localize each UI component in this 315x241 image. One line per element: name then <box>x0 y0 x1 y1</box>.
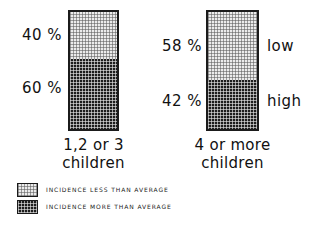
bar-1-segment-high <box>70 59 117 129</box>
bar-2-category-line-1: 4 or more <box>167 136 298 154</box>
bar-1-segment-low-value: 40 % <box>6 28 62 43</box>
bar-1-segment-low <box>70 12 117 59</box>
bar-2-segment-low-value: 58 % <box>150 39 202 54</box>
bar-group-1: 40 % 60 % 1,2 or 3 children <box>0 0 150 175</box>
bar-2-category-caption: 4 or more children <box>167 136 298 172</box>
bar-2-segment-high-side-label: high <box>267 94 301 109</box>
legend-swatch-dark-checker-icon <box>17 200 38 214</box>
bar-1-category-line-1: 1,2 or 3 <box>28 136 159 154</box>
bar-2-category-line-2: children <box>167 154 298 172</box>
bar-group-2: 58 % 42 % low high 4 or more children <box>150 0 315 175</box>
bar-2-segment-low-side-label: low <box>267 39 294 54</box>
bar-2-segment-low <box>208 12 257 80</box>
bar-1 <box>68 10 119 131</box>
legend-label-less-than-average: INCIDENCE LESS THAN AVERAGE <box>46 186 169 193</box>
bar-2-segment-high <box>208 80 257 129</box>
stacked-bar-chart: 40 % 60 % 1,2 or 3 children 58 % 42 % lo… <box>0 0 315 241</box>
bar-1-category-line-2: children <box>28 154 159 172</box>
bar-2 <box>206 10 259 131</box>
bar-1-segment-high-value: 60 % <box>6 81 62 96</box>
bar-1-category-caption: 1,2 or 3 children <box>28 136 159 172</box>
legend-swatch-light-dotted-icon <box>17 183 38 197</box>
bar-2-segment-high-value: 42 % <box>150 94 202 109</box>
legend-label-more-than-average: INCIDENCE MORE THAN AVERAGE <box>46 203 172 210</box>
